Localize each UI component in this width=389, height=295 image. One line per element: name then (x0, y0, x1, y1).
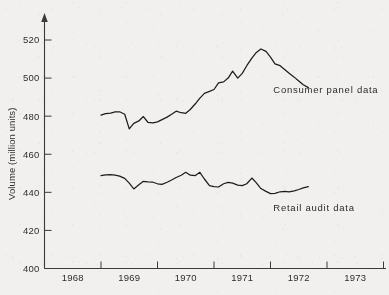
y-axis-title: Volume (million units) (6, 108, 17, 200)
x-tick-label: 1971 (231, 272, 253, 283)
y-tick-label: 480 (23, 111, 39, 122)
x-tick-label: 1970 (175, 272, 197, 283)
x-tick-label: 1973 (344, 272, 366, 283)
y-tick-label: 400 (23, 263, 39, 274)
x-tick-label: 1972 (288, 272, 310, 283)
series-group (101, 49, 308, 194)
annotation-consumer-panel-data: Consumer panel data (273, 84, 378, 95)
annotation-group: Consumer panel data Retail audit data (273, 84, 378, 213)
y-tick-label: 500 (23, 72, 39, 83)
x-tick-label: 1968 (62, 272, 84, 283)
x-tick-group: 196819691970197119721973 (45, 262, 384, 284)
annotation-retail-audit-data: Retail audit data (273, 202, 354, 213)
series-line-retail-audit-data (101, 172, 308, 193)
y-tick-label: 520 (23, 34, 39, 45)
chart-figure: 400420440460480500520 196819691970197119… (0, 0, 389, 295)
y-tick-label: 440 (23, 187, 39, 198)
y-axis-arrow-icon (41, 13, 48, 22)
y-tick-label: 420 (23, 225, 39, 236)
y-axis: 400420440460480500520 (23, 13, 51, 274)
x-axis: 196819691970197119721973 (45, 262, 387, 284)
line-chart: 400420440460480500520 196819691970197119… (0, 0, 389, 295)
x-tick-label: 1969 (118, 272, 140, 283)
y-tick-group: 400420440460480500520 (23, 34, 51, 274)
y-tick-label: 460 (23, 149, 39, 160)
